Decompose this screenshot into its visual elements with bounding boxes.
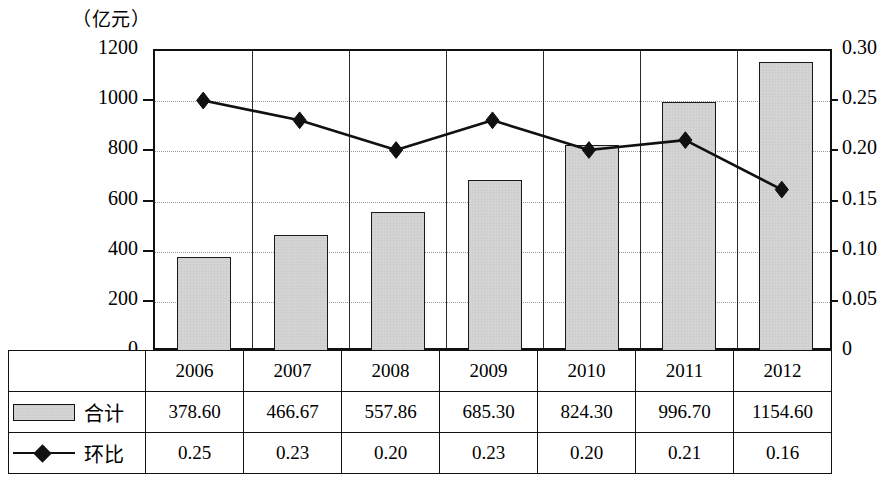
plot-inner — [155, 51, 830, 348]
table-row: 合计378.60466.67557.86685.30824.30996.7011… — [9, 392, 832, 433]
category-separator — [640, 51, 641, 348]
legend-bar-swatch-icon — [13, 404, 75, 421]
left-axis-tick-label: 800 — [58, 136, 138, 159]
table-value-cell: 824.30 — [538, 392, 636, 433]
data-table-wrapper: 2006200720082009201020112012合计378.60466.… — [8, 350, 832, 472]
table-value-cell: 685.30 — [440, 392, 538, 433]
category-separator — [252, 51, 253, 348]
legend-label: 合计 — [84, 398, 124, 427]
chart-figure: （亿元） 020040060080010001200 00.050.100.15… — [0, 0, 878, 477]
right-axis-tick-label: 0.05 — [842, 287, 878, 310]
right-axis-tick-label: 0.20 — [842, 136, 878, 159]
table-value-cell: 466.67 — [244, 392, 342, 433]
bar — [662, 102, 716, 352]
table-value-cell: 378.60 — [146, 392, 244, 433]
left-axis-tick-label: 200 — [58, 287, 138, 310]
table-value-cell: 996.70 — [636, 392, 734, 433]
table-header-row: 2006200720082009201020112012 — [9, 351, 832, 392]
table-row: 环比0.250.230.200.230.200.210.16 — [9, 433, 832, 474]
line-marker-diamond — [389, 142, 402, 159]
line-marker-diamond — [486, 112, 499, 129]
right-axis-tick-label: 0.15 — [842, 187, 878, 210]
legend-cell: 环比 — [9, 433, 146, 474]
gridline — [155, 101, 830, 102]
category-separator — [446, 51, 447, 348]
bar — [759, 62, 813, 352]
table-year-header-cell: 2010 — [538, 351, 636, 392]
table-year-header-cell: 2011 — [636, 351, 734, 392]
table-value-cell: 0.23 — [440, 433, 538, 474]
left-axis-tick-label: 1200 — [58, 36, 138, 59]
right-axis-tick-label: 0 — [842, 337, 878, 360]
table-year-header-cell: 2009 — [440, 351, 538, 392]
unit-caption: （亿元） — [72, 4, 150, 31]
plot-area — [153, 49, 832, 350]
table-year-header-cell: 2012 — [734, 351, 832, 392]
table-value-cell: 0.25 — [146, 433, 244, 474]
legend-diamond-icon — [33, 444, 51, 462]
line-marker-diamond — [293, 112, 306, 129]
bar — [468, 180, 522, 352]
table-value-cell: 557.86 — [342, 392, 440, 433]
right-axis-tick-label: 0.25 — [842, 86, 878, 109]
bar — [565, 145, 619, 352]
right-axis-tick-label: 0.30 — [842, 36, 878, 59]
category-separator — [543, 51, 544, 348]
left-axis-tick-label: 600 — [58, 187, 138, 210]
data-table: 2006200720082009201020112012合计378.60466.… — [8, 350, 832, 474]
table-value-cell: 0.21 — [636, 433, 734, 474]
legend-entry: 环比 — [9, 439, 145, 468]
table-value-cell: 0.23 — [244, 433, 342, 474]
table-year-header-cell: 2008 — [342, 351, 440, 392]
table-value-cell: 0.20 — [342, 433, 440, 474]
table-value-cell: 0.16 — [734, 433, 832, 474]
bar — [371, 212, 425, 352]
table-value-cell: 0.20 — [538, 433, 636, 474]
gridline — [155, 151, 830, 152]
category-separator — [349, 51, 350, 348]
bar — [274, 235, 328, 352]
left-axis-tick-label: 400 — [58, 237, 138, 260]
legend-cell: 合计 — [9, 392, 146, 433]
table-value-cell: 1154.60 — [734, 392, 832, 433]
table-year-header-cell: 2006 — [146, 351, 244, 392]
legend-line-marker-swatch-icon — [13, 445, 75, 462]
category-separator — [737, 51, 738, 348]
left-axis-tick-label: 1000 — [58, 86, 138, 109]
right-axis-tick-label: 0.10 — [842, 237, 878, 260]
table-year-header-cell: 2007 — [244, 351, 342, 392]
legend-entry: 合计 — [9, 398, 145, 427]
table-corner-blank — [9, 351, 146, 392]
legend-label: 环比 — [84, 439, 124, 468]
bar — [177, 257, 231, 352]
